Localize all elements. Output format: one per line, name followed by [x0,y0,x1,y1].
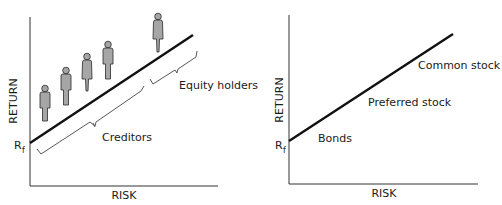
bonds-label: Bonds [318,132,352,145]
person-icon [82,53,92,91]
person-icon [61,67,71,105]
creditors-label: Creditors [102,131,152,144]
person-icon [40,85,50,121]
equity-holders-label: Equity holders [179,79,258,92]
right-y-axis-label: RETURN [273,77,286,122]
right-chart: RETURN RISK R f Bonds Preferred stock Co… [273,15,501,200]
right-intercept-label: R f [275,139,286,155]
left-intercept-label: R f [14,139,25,155]
preferred-stock-label: Preferred stock [368,96,452,109]
svg-text:R: R [275,139,283,152]
right-risk-return-line [289,34,453,141]
svg-text:f: f [283,146,286,155]
svg-text:f: f [22,146,25,155]
right-x-axis-label: RISK [371,187,397,200]
left-chart: RETURN RISK R f Creditors Equity holders [7,13,258,202]
left-y-axis-label: RETURN [7,78,20,123]
common-stock-label: Common stock [418,59,501,72]
person-icon [153,13,163,52]
person-icon [103,41,113,79]
left-x-axis-label: RISK [111,189,137,202]
risk-return-diagram: RETURN RISK R f Creditors Equity holders [0,0,502,205]
svg-text:R: R [14,139,22,152]
